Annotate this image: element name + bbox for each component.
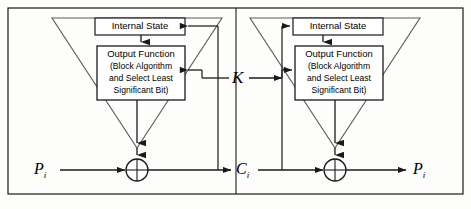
ciphertext-letter: C xyxy=(236,160,247,177)
key-label: K xyxy=(232,68,243,88)
encryption-internal-state-box xyxy=(95,18,185,35)
plaintext-input-subscript: i xyxy=(44,170,47,180)
plaintext-output-label: Pi xyxy=(413,160,425,180)
plaintext-input-label: Pi xyxy=(34,160,46,180)
plaintext-input-letter: P xyxy=(34,160,44,177)
plaintext-output-letter: P xyxy=(413,160,423,177)
encryption-output-function-box xyxy=(97,46,185,100)
ciphertext-subscript: i xyxy=(247,170,250,180)
ciphertext-label: Ci xyxy=(236,160,249,180)
decryption-group xyxy=(250,18,420,181)
decryption-internal-state-box xyxy=(293,18,383,35)
encryption-group xyxy=(52,18,231,181)
diagram-canvas: Internal State Output Function (Block Al… xyxy=(0,0,471,209)
plaintext-output-subscript: i xyxy=(423,170,426,180)
decryption-output-function-box xyxy=(295,46,383,100)
